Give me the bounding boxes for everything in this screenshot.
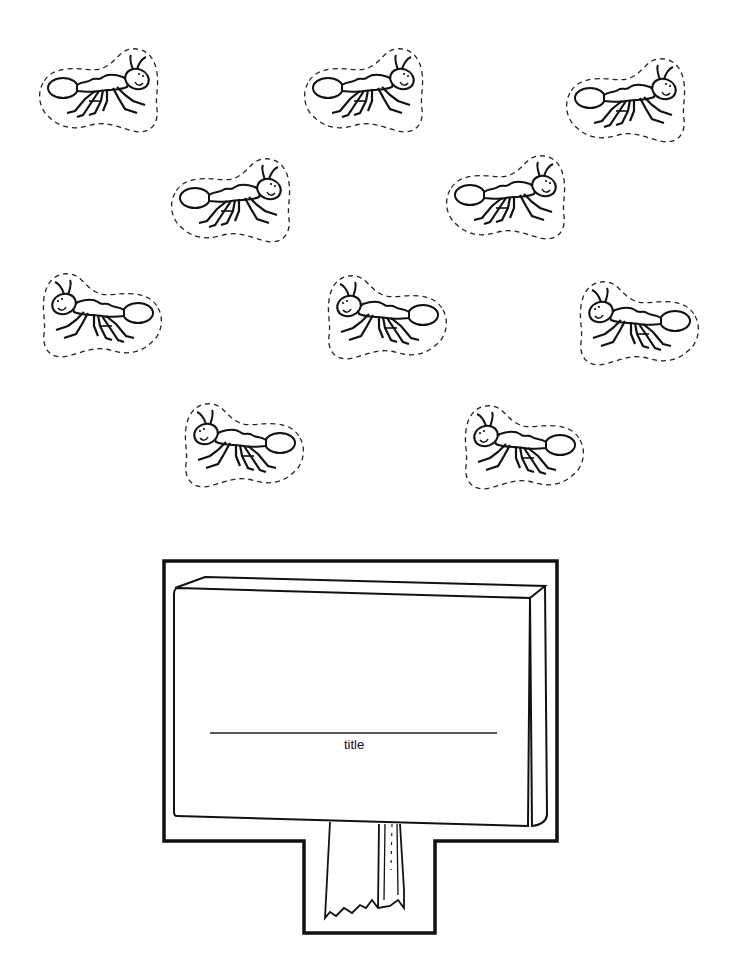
post — [325, 822, 404, 918]
ant-cutout-left — [458, 400, 590, 492]
ant-drawing — [178, 398, 310, 490]
ant-drawing — [560, 53, 692, 145]
ant-drawing — [33, 43, 165, 135]
sign-board-face — [174, 588, 530, 826]
ant-cutout-left — [36, 268, 168, 360]
sign-board-side — [530, 586, 547, 826]
sign-board-top-edge — [175, 577, 545, 598]
sign-title-label: title — [210, 737, 498, 752]
ant-cutout-right — [165, 153, 297, 245]
ant-drawing — [321, 270, 453, 362]
ant-cutout-right — [440, 150, 572, 242]
ant-drawing — [36, 268, 168, 360]
ant-drawing — [298, 43, 430, 135]
ant-cutout-left — [178, 398, 310, 490]
ant-drawing — [573, 276, 705, 368]
ant-cutout-right — [560, 53, 692, 145]
ant-drawing — [165, 153, 297, 245]
ant-cutout-left — [573, 276, 705, 368]
ant-drawing — [440, 150, 572, 242]
ant-cutout-left — [321, 270, 453, 362]
ant-cutout-right — [33, 43, 165, 135]
ant-cutout-right — [298, 43, 430, 135]
ant-drawing — [458, 400, 590, 492]
